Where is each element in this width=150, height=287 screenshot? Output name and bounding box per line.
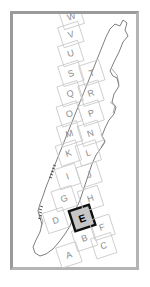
grid-cell-label-O: O — [64, 108, 74, 120]
grid-cell-label-G: G — [59, 193, 69, 205]
grid-cell-label-T: T — [88, 67, 97, 78]
grid-cell-label-C: C — [99, 240, 109, 252]
grid-cell-label-I: I — [65, 171, 70, 181]
grid-cell-label-J: J — [85, 169, 92, 180]
grid-cell-J[interactable]: J — [76, 162, 102, 188]
grid-cell-label-N: N — [86, 128, 95, 140]
map-figure: A B C D — [0, 0, 150, 287]
grid-cell-D[interactable]: D — [42, 207, 68, 233]
grid-cell-I[interactable]: I — [54, 163, 80, 189]
grid-cell-label-M: M — [64, 128, 74, 140]
grid-cell-label-R: R — [86, 87, 96, 99]
grid-cell-label-U: U — [66, 48, 75, 60]
grid-cell-G[interactable]: G — [51, 185, 77, 211]
shoreline-hatching — [38, 165, 56, 219]
grid-cell-label-A: A — [64, 249, 73, 260]
grid-cell-label-F: F — [98, 222, 107, 233]
map-frame: A B C D — [10, 11, 139, 270]
map-svg: A B C D — [13, 14, 142, 273]
grid-cell-V[interactable]: V — [58, 21, 84, 47]
grid-cell-label-P: P — [87, 107, 96, 118]
map-canvas[interactable]: A B C D — [13, 14, 142, 273]
grid-cell-label-D: D — [51, 214, 61, 226]
grid-cell-E[interactable]: E — [69, 205, 95, 231]
grid-cell-label-B: B — [80, 233, 89, 244]
grid-cell-label-K: K — [64, 147, 73, 158]
grid-cell-label-L: L — [84, 147, 92, 158]
grid-cell-label-Q: Q — [65, 88, 75, 100]
grid-cell-label-W: W — [66, 14, 78, 23]
grid-cell-label-S: S — [66, 68, 75, 79]
reference-grid[interactable]: A B C D — [13, 14, 142, 271]
grid-cell-label-H: H — [86, 193, 95, 205]
grid-cell-label-V: V — [66, 29, 75, 40]
grid-cell-W[interactable]: W — [58, 14, 84, 30]
grid-cell-A[interactable]: A — [56, 242, 82, 268]
